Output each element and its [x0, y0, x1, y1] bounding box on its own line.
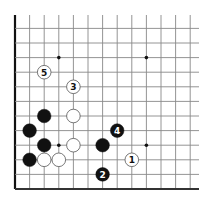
move-number: 3	[70, 82, 76, 92]
white-stone	[52, 153, 66, 167]
stone-disc	[37, 109, 51, 123]
stone-disc	[23, 124, 37, 138]
stone-disc	[23, 153, 37, 167]
stones: 12345	[23, 65, 139, 181]
go-board-diagram: 12345	[0, 0, 210, 202]
black-stone-move-2: 2	[96, 168, 110, 182]
stone-disc	[96, 138, 110, 152]
black-stone	[37, 138, 51, 152]
black-stone	[37, 109, 51, 123]
white-stone-move-3: 3	[67, 80, 81, 94]
move-number: 1	[129, 155, 135, 165]
black-stone	[23, 153, 37, 167]
stone-disc	[67, 109, 81, 123]
black-stone-move-4: 4	[110, 124, 124, 138]
white-stone-move-1: 1	[125, 153, 139, 167]
white-stone	[67, 109, 81, 123]
white-stone-move-5: 5	[37, 65, 51, 79]
stone-disc	[52, 153, 66, 167]
stone-disc	[37, 153, 51, 167]
stone-disc	[37, 138, 51, 152]
hoshi-point	[57, 56, 61, 60]
black-stone	[96, 138, 110, 152]
hoshi-point	[145, 143, 149, 147]
black-stone	[23, 124, 37, 138]
move-number: 5	[41, 68, 47, 78]
move-number: 2	[99, 170, 105, 180]
hoshi-point	[145, 56, 149, 60]
white-stone	[67, 138, 81, 152]
move-number: 4	[114, 126, 120, 136]
white-stone	[37, 153, 51, 167]
stone-disc	[67, 138, 81, 152]
hoshi-point	[57, 143, 61, 147]
